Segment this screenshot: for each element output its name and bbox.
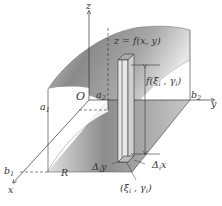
double-integral-diagram: z O y x a2 a1 b1 b2 z = f(x, y) f(ξi , γ… [0,0,222,206]
region-r-label: R [60,167,68,178]
surface-equation-label: z = f(x, y) [113,35,161,46]
x-axis-label: x [8,184,14,195]
riemann-column [118,54,134,162]
b1-label: b1 [4,165,14,178]
z-axis-label: z [85,0,92,11]
delta-x-label: Δix [151,159,167,172]
origin-label: O [76,90,85,103]
point-label: (ξi , γi) [120,182,152,195]
y-axis-label: y [210,98,217,109]
a1-label: a1 [40,101,50,114]
